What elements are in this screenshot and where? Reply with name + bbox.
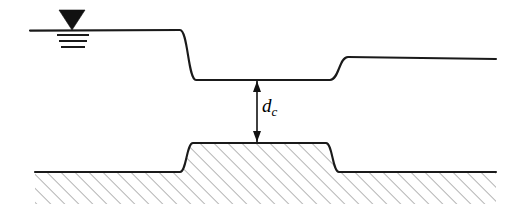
channel-bed-hatching: [0, 130, 512, 204]
critical-depth-symbol: d: [262, 95, 272, 116]
critical-depth-label: dc: [262, 96, 277, 118]
critical-depth-dimension-arrow: [253, 81, 261, 142]
critical-depth-subscript: c: [272, 104, 278, 119]
water-surface-line: [30, 30, 496, 80]
dimension-arrowhead-bottom: [253, 131, 261, 142]
water-level-symbol: [57, 10, 89, 47]
flow-over-hump-diagram: dc: [0, 0, 512, 204]
dimension-arrowhead-top: [253, 81, 261, 92]
diagram-canvas: [0, 0, 512, 204]
water-level-triangle-icon: [59, 10, 85, 30]
